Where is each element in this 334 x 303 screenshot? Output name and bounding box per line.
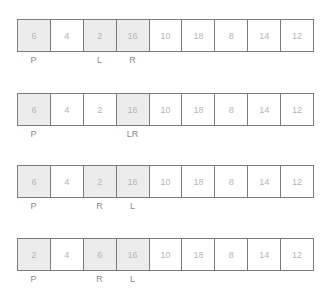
pivot-label: P — [17, 274, 50, 284]
array-cell: 16 — [117, 166, 150, 197]
right-pointer-label: R — [116, 55, 149, 65]
pointer-labels: P LR — [17, 129, 314, 143]
partition-step-2: 6 4 2 16 10 18 8 14 12 P LR — [17, 93, 314, 143]
array-cell: 14 — [248, 20, 281, 51]
array-cell: 10 — [150, 166, 183, 197]
array-cell: 10 — [150, 20, 183, 51]
pivot-label: P — [17, 55, 50, 65]
array-cell: 2 — [84, 20, 117, 51]
array-cell: 2 — [84, 166, 117, 197]
pointer-labels: P R L — [17, 201, 314, 215]
left-pointer-label: L — [116, 201, 149, 211]
array-cell: 18 — [182, 20, 215, 51]
array-cell: 16 — [117, 20, 150, 51]
array-cell: 6 — [18, 20, 51, 51]
array-cell: 4 — [51, 239, 84, 270]
right-pointer-label: R — [83, 274, 116, 284]
array-cell: 4 — [51, 166, 84, 197]
array-cell: 12 — [281, 20, 313, 51]
array-cell: 4 — [51, 94, 84, 125]
array-cell: 18 — [182, 94, 215, 125]
array-cell: 8 — [215, 166, 248, 197]
array-cell: 2 — [84, 94, 117, 125]
array-cell: 4 — [51, 20, 84, 51]
array-cell: 8 — [215, 20, 248, 51]
array-cell: 6 — [18, 166, 51, 197]
left-pointer-label: L — [83, 55, 116, 65]
array-cell: 14 — [248, 94, 281, 125]
array-row: 2 4 6 16 10 18 8 14 12 — [17, 238, 314, 271]
array-cell: 16 — [117, 94, 150, 125]
partition-step-4: 2 4 6 16 10 18 8 14 12 P R L — [17, 238, 314, 288]
array-cell: 12 — [281, 239, 313, 270]
array-cell: 8 — [215, 239, 248, 270]
array-cell: 18 — [182, 239, 215, 270]
left-pointer-label: L — [116, 274, 149, 284]
array-cell: 12 — [281, 166, 313, 197]
partition-step-1: 6 4 2 16 10 18 8 14 12 P L R — [17, 19, 314, 69]
array-cell: 12 — [281, 94, 313, 125]
array-cell: 6 — [84, 239, 117, 270]
array-cell: 14 — [248, 166, 281, 197]
array-cell: 6 — [18, 94, 51, 125]
partition-step-3: 6 4 2 16 10 18 8 14 12 P R L — [17, 165, 314, 215]
array-row: 6 4 2 16 10 18 8 14 12 — [17, 165, 314, 198]
pivot-label: P — [17, 201, 50, 211]
array-cell: 2 — [18, 239, 51, 270]
array-cell: 10 — [150, 94, 183, 125]
array-cell: 16 — [117, 239, 150, 270]
pivot-label: P — [17, 129, 50, 139]
right-pointer-label: R — [83, 201, 116, 211]
pointer-labels: P R L — [17, 274, 314, 288]
left-right-pointer-label: LR — [116, 129, 149, 139]
array-row: 6 4 2 16 10 18 8 14 12 — [17, 19, 314, 52]
array-cell: 14 — [248, 239, 281, 270]
array-cell: 10 — [150, 239, 183, 270]
array-row: 6 4 2 16 10 18 8 14 12 — [17, 93, 314, 126]
array-cell: 8 — [215, 94, 248, 125]
pointer-labels: P L R — [17, 55, 314, 69]
array-cell: 18 — [182, 166, 215, 197]
